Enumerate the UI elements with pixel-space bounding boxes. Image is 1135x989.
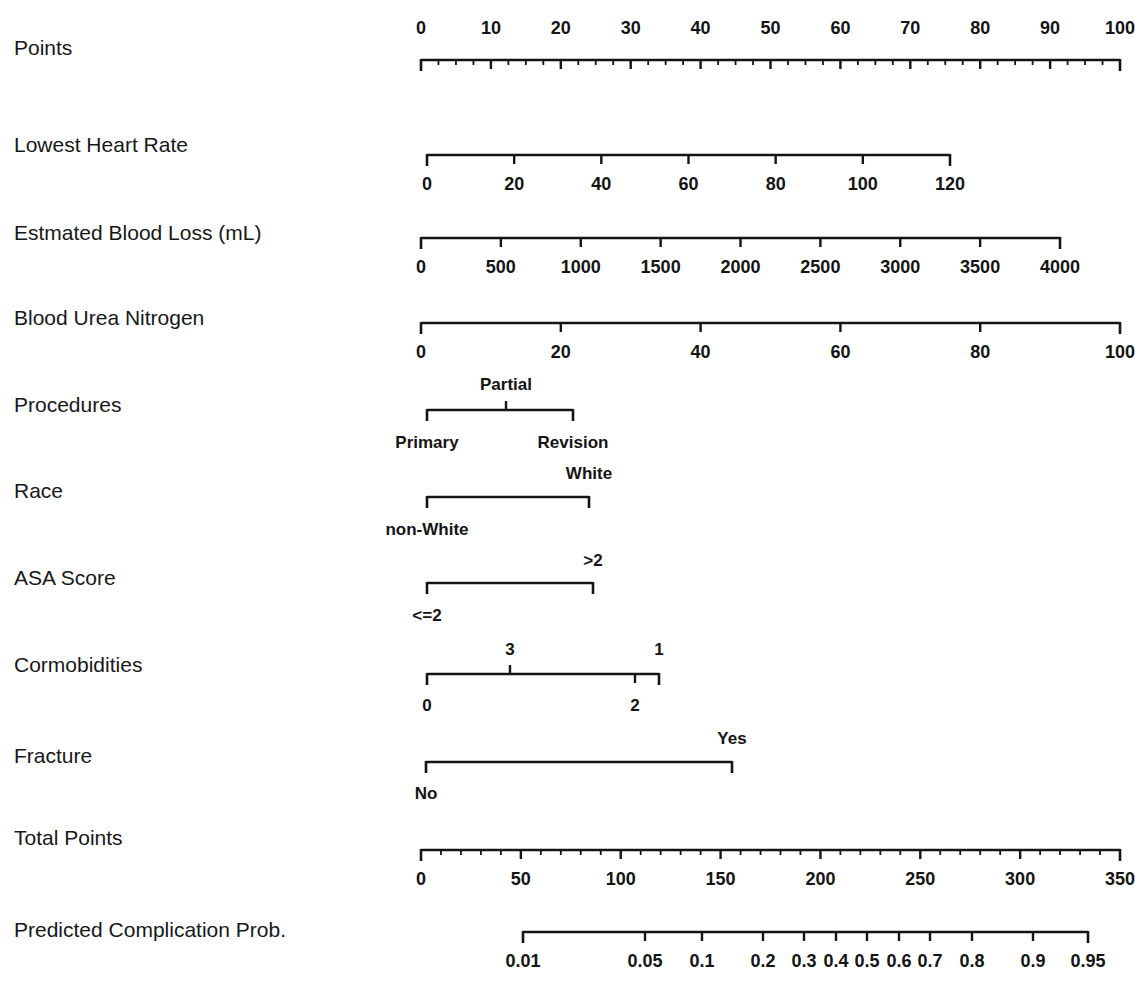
tick-label-blood-urea-nitrogen: 60: [830, 342, 850, 362]
tick-label-points: 60: [830, 18, 850, 38]
category-label-cormobidities: 1: [654, 640, 663, 659]
category-label-cormobidities: 0: [422, 696, 431, 715]
tick-label-blood-urea-nitrogen: 100: [1105, 342, 1135, 362]
nomogram-canvas: Points0102030405060708090100Lowest Heart…: [0, 0, 1135, 989]
tick-label-points: 80: [970, 18, 990, 38]
tick-label-lowest-heart-rate: 120: [935, 174, 965, 194]
category-label-procedures: Primary: [395, 433, 459, 452]
tick-label-estimated-blood-loss: 1000: [561, 257, 601, 277]
tick-label-blood-urea-nitrogen: 80: [970, 342, 990, 362]
tick-label-lowest-heart-rate: 40: [591, 174, 611, 194]
row-label-estimated-blood-loss: Estmated Blood Loss (mL): [14, 221, 261, 244]
row-label-procedures: Procedures: [14, 393, 121, 416]
tick-label-lowest-heart-rate: 100: [848, 174, 878, 194]
category-label-procedures: Revision: [538, 433, 609, 452]
row-label-lowest-heart-rate: Lowest Heart Rate: [14, 133, 188, 156]
tick-label-estimated-blood-loss: 3000: [880, 257, 920, 277]
row-label-cormobidities: Cormobidities: [14, 653, 142, 676]
tick-label-predicted-complication-prob: 0.1: [689, 951, 714, 971]
tick-label-total-points: 50: [511, 869, 531, 889]
tick-label-predicted-complication-prob: 0.9: [1020, 951, 1045, 971]
tick-label-predicted-complication-prob: 0.01: [505, 951, 540, 971]
row-label-predicted-complication-prob: Predicted Complication Prob.: [14, 918, 286, 941]
tick-label-predicted-complication-prob: 0.6: [886, 951, 911, 971]
category-label-fracture: Yes: [717, 729, 746, 748]
tick-label-points: 20: [551, 18, 571, 38]
tick-label-lowest-heart-rate: 60: [678, 174, 698, 194]
tick-label-total-points: 250: [905, 869, 935, 889]
tick-label-blood-urea-nitrogen: 20: [551, 342, 571, 362]
tick-label-lowest-heart-rate: 0: [422, 174, 432, 194]
tick-label-points: 90: [1040, 18, 1060, 38]
tick-label-lowest-heart-rate: 80: [766, 174, 786, 194]
category-label-asa-score: <=2: [412, 606, 441, 625]
tick-label-predicted-complication-prob: 0.5: [854, 951, 879, 971]
tick-label-estimated-blood-loss: 1500: [641, 257, 681, 277]
row-label-total-points: Total Points: [14, 826, 123, 849]
tick-label-estimated-blood-loss: 2500: [800, 257, 840, 277]
tick-label-total-points: 100: [606, 869, 636, 889]
row-label-fracture: Fracture: [14, 744, 92, 767]
tick-label-estimated-blood-loss: 3500: [960, 257, 1000, 277]
tick-label-points: 50: [760, 18, 780, 38]
row-label-race: Race: [14, 479, 63, 502]
tick-label-points: 70: [900, 18, 920, 38]
category-label-procedures: Partial: [480, 375, 532, 394]
row-label-asa-score: ASA Score: [14, 566, 116, 589]
tick-label-predicted-complication-prob: 0.05: [627, 951, 662, 971]
tick-label-total-points: 150: [706, 869, 736, 889]
category-label-fracture: No: [415, 784, 438, 803]
tick-label-predicted-complication-prob: 0.4: [823, 951, 848, 971]
tick-label-points: 30: [621, 18, 641, 38]
tick-label-total-points: 0: [416, 869, 426, 889]
row-label-blood-urea-nitrogen: Blood Urea Nitrogen: [14, 306, 204, 329]
tick-label-predicted-complication-prob: 0.7: [917, 951, 942, 971]
tick-label-predicted-complication-prob: 0.2: [750, 951, 775, 971]
tick-label-points: 0: [416, 18, 426, 38]
tick-label-predicted-complication-prob: 0.3: [791, 951, 816, 971]
category-label-race: non-White: [385, 520, 468, 539]
tick-label-total-points: 200: [805, 869, 835, 889]
tick-label-total-points: 300: [1005, 869, 1035, 889]
tick-label-estimated-blood-loss: 500: [486, 257, 516, 277]
tick-label-estimated-blood-loss: 2000: [720, 257, 760, 277]
tick-label-lowest-heart-rate: 20: [504, 174, 524, 194]
nomogram-figure: Points0102030405060708090100Lowest Heart…: [0, 0, 1135, 989]
tick-label-blood-urea-nitrogen: 40: [691, 342, 711, 362]
tick-label-predicted-complication-prob: 0.8: [959, 951, 984, 971]
category-label-race: White: [566, 464, 612, 483]
tick-label-points: 100: [1105, 18, 1135, 38]
category-label-asa-score: >2: [583, 551, 602, 570]
row-label-points: Points: [14, 36, 72, 59]
tick-label-estimated-blood-loss: 0: [416, 257, 426, 277]
category-label-cormobidities: 2: [630, 696, 639, 715]
category-label-cormobidities: 3: [505, 640, 514, 659]
tick-label-estimated-blood-loss: 4000: [1040, 257, 1080, 277]
tick-label-predicted-complication-prob: 0.95: [1070, 951, 1105, 971]
tick-label-blood-urea-nitrogen: 0: [416, 342, 426, 362]
tick-label-points: 40: [691, 18, 711, 38]
tick-label-total-points: 350: [1105, 869, 1135, 889]
tick-label-points: 10: [481, 18, 501, 38]
